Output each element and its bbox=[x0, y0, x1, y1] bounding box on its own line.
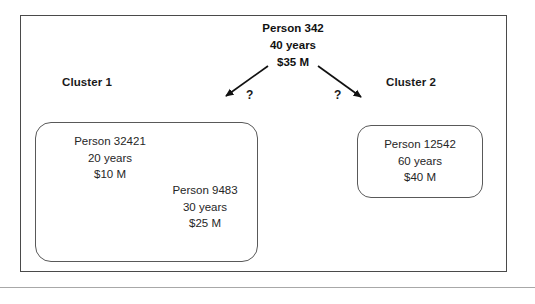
cluster-1-member-1: Person 32421 20 years $10 M bbox=[45, 133, 175, 183]
member-name: Person 9483 bbox=[145, 182, 265, 199]
member-wealth: $40 M bbox=[360, 169, 480, 186]
diagram-canvas: Person 342 40 years $35 M ? ? Cluster 1 … bbox=[0, 0, 535, 304]
member-age: 60 years bbox=[360, 153, 480, 170]
member-wealth: $25 M bbox=[145, 215, 265, 232]
edge-label-left: ? bbox=[246, 88, 253, 102]
cluster-2-member-1: Person 12542 60 years $40 M bbox=[360, 136, 480, 186]
member-age: 20 years bbox=[45, 150, 175, 167]
cluster-1-member-2: Person 9483 30 years $25 M bbox=[145, 182, 265, 232]
member-wealth: $10 M bbox=[45, 166, 175, 183]
bottom-separator bbox=[0, 287, 535, 288]
member-name: Person 32421 bbox=[45, 133, 175, 150]
edge-label-right: ? bbox=[334, 88, 341, 102]
member-age: 30 years bbox=[145, 199, 265, 216]
member-name: Person 12542 bbox=[360, 136, 480, 153]
cluster-1-label: Cluster 1 bbox=[62, 76, 112, 88]
cluster-2-label: Cluster 2 bbox=[386, 76, 436, 88]
